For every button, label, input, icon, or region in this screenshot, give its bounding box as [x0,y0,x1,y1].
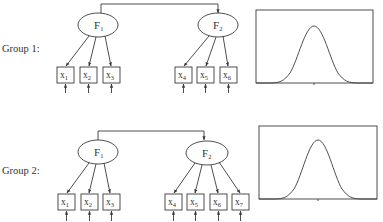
factor-covariance-arrow [101,4,218,13]
two-group-cfa-diagram: Group 1: F1 F2 x1 x2 [0,0,383,222]
factor-f2: F2 [198,13,238,37]
factor-f1: F1 [78,140,118,164]
indicator-x6: x6 [210,194,227,221]
group-1-label: Group 1: [2,43,40,54]
indicator-x4: x4 [165,194,182,221]
loading-arrow [105,36,111,66]
factor-covariance-arrow [98,131,204,140]
loading-arrow [89,164,96,193]
group-2-label: Group 2: [2,165,40,176]
indicator-x6: x6 [220,67,237,93]
group-2-normal-curve-plot [259,126,377,201]
indicator-x1: x1 [58,194,75,221]
loading-arrow [195,165,202,193]
loading-arrow [211,165,218,193]
loading-arrow [174,163,195,193]
indicator-x3: x3 [103,67,120,93]
loading-arrow [206,37,216,66]
loading-arrow [104,163,110,193]
group-1-normal-curve-plot [256,10,373,85]
loading-arrow [89,37,96,66]
loading-arrow [67,163,89,193]
factor-f2: F2 [186,141,228,165]
loading-arrow [219,162,240,193]
factor-f1: F1 [78,13,118,37]
normal-curve [256,26,373,83]
indicator-x7: x7 [232,194,249,221]
indicator-x2: x2 [80,67,97,93]
indicator-x3: x3 [103,194,120,221]
loading-arrow [66,36,89,66]
group-1: Group 1: F1 F2 x1 x2 [2,4,373,93]
indicator-x4: x4 [175,67,192,93]
indicator-x1: x1 [57,67,74,93]
indicator-x2: x2 [81,194,98,221]
indicator-x5: x5 [187,194,204,221]
indicator-x5: x5 [197,67,214,93]
loading-arrow [223,36,228,66]
group-2: Group 2: F1 F2 x1 x2 [2,126,377,221]
loading-arrow [184,36,209,66]
normal-curve [259,140,377,199]
